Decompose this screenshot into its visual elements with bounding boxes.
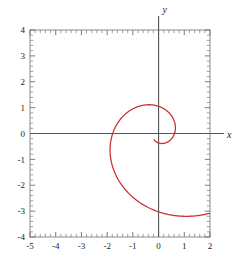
x-tick-label: 0 — [156, 241, 161, 251]
y-tick-label: 0 — [21, 129, 26, 139]
x-tick-label: -2 — [103, 241, 111, 251]
chart-canvas: -5-4-3-2-1012-4-3-2-101234xy — [0, 0, 234, 259]
x-tick-label: 2 — [208, 241, 213, 251]
y-tick-label: -1 — [18, 155, 26, 165]
x-axis-label: x — [226, 129, 232, 140]
x-tick-label: -4 — [52, 241, 60, 251]
y-tick-label: -3 — [18, 206, 26, 216]
x-tick-label: -1 — [129, 241, 137, 251]
y-tick-label: -4 — [18, 232, 26, 242]
spiral-curve — [110, 0, 234, 216]
y-tick-label: 2 — [21, 77, 26, 87]
y-tick-label: 4 — [21, 25, 26, 35]
x-tick-label: -3 — [78, 241, 86, 251]
y-tick-label: 3 — [21, 51, 26, 61]
x-tick-label: -5 — [26, 241, 34, 251]
y-axis-label: y — [162, 4, 168, 15]
y-tick-label: -2 — [18, 180, 26, 190]
spiral-figure: -5-4-3-2-1012-4-3-2-101234xy — [0, 0, 234, 259]
x-tick-label: 1 — [182, 241, 187, 251]
y-tick-label: 1 — [21, 103, 26, 113]
